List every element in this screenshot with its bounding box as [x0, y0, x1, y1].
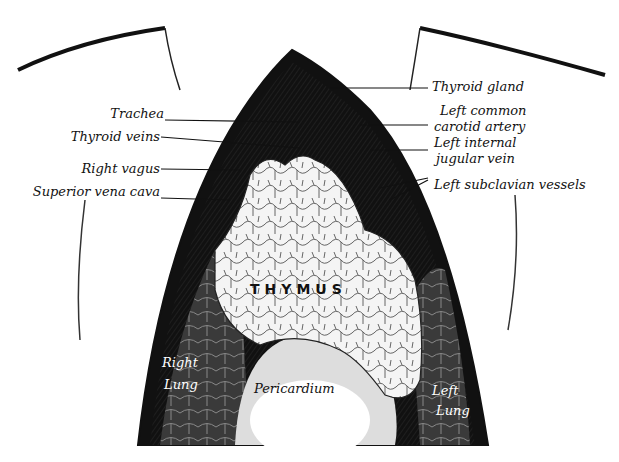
label-left-lung-2: Lung — [436, 404, 470, 418]
label-right-vagus: Right vagus — [30, 162, 160, 176]
label-jugular-vein: jugular vein — [436, 152, 515, 166]
label-left-common: Left common — [440, 104, 526, 118]
label-thyroid-veins: Thyroid veins — [20, 130, 160, 144]
label-thymus: THYMUS — [250, 281, 347, 297]
label-right-lung-2: Lung — [164, 378, 198, 392]
shoulder-right-outline — [420, 28, 605, 75]
label-right-lung-1: Right — [162, 356, 198, 370]
label-superior-vena-cava: Superior vena cava — [0, 185, 160, 199]
label-carotid-artery: carotid artery — [434, 120, 525, 134]
label-left-subclavian-vessels: Left subclavian vessels — [434, 178, 586, 192]
shoulder-left-outline — [18, 28, 165, 70]
label-left-internal: Left internal — [434, 136, 516, 150]
label-trachea: Trachea — [60, 107, 164, 121]
label-thyroid-gland: Thyroid gland — [432, 80, 524, 94]
label-left-lung-1: Left — [432, 384, 458, 398]
label-pericardium: Pericardium — [254, 382, 335, 396]
